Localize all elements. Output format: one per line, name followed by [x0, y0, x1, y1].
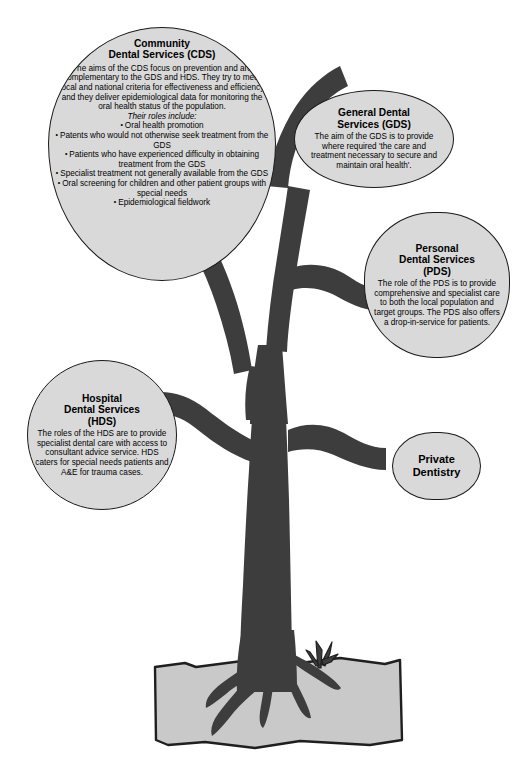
bubble-hospital-dental-services[interactable]: Hospital Dental Services (HDS) The roles… — [27, 360, 177, 510]
bubble-cds-title: Community Dental Services (CDS) — [108, 38, 215, 61]
bubble-private-title-line2: Dentistry — [413, 466, 461, 479]
bubble-gds-title: General Dental Services (GDS) — [337, 107, 411, 130]
branch-to-private — [288, 425, 386, 470]
bubble-general-dental-services[interactable]: General Dental Services (GDS) The aim of… — [294, 90, 454, 188]
diagram-canvas: Community Dental Services (CDS) The aims… — [0, 0, 522, 768]
bubble-private-dentistry[interactable]: Private Dentistry — [392, 432, 481, 500]
list-item: Epidemiological fieldwork — [55, 198, 269, 208]
list-item: Patents who would not otherwise seek tre… — [55, 131, 269, 150]
list-item: Patients who have experienced difficulty… — [55, 150, 269, 169]
bubble-pds-title: Personal Dental Services (PDS) — [399, 243, 475, 277]
list-item: Oral health promotion — [55, 121, 269, 131]
list-item: Oral screening for children and other pa… — [55, 179, 269, 198]
bubble-pds-body: The role of the PDS is to provide compre… — [372, 279, 502, 327]
bubble-personal-dental-services[interactable]: Personal Dental Services (PDS) The role … — [364, 212, 510, 358]
bubble-private-title-line1: Private — [418, 453, 455, 466]
bubble-gds-body: The aim of the GDS is to provide where r… — [305, 132, 443, 170]
bubble-cds-roles-list: Oral health promotion Patents who would … — [55, 121, 269, 207]
bubble-cds-roles-heading: Their roles include: — [127, 112, 196, 122]
bubble-cds-body: The aims of the CDS focus on prevention … — [55, 64, 269, 112]
bubble-hds-title: Hospital Dental Services (HDS) — [64, 393, 140, 427]
list-item: Specialist treatment not generally avail… — [55, 169, 269, 179]
bubble-hds-body: The roles of the HDS are to provide spec… — [34, 429, 170, 477]
